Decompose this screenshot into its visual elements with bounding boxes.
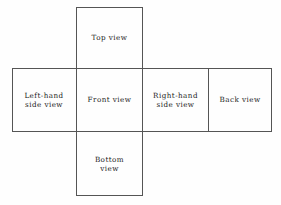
view-cell-front: Front view — [76, 68, 143, 132]
view-cell-bottom-label: Bottom view — [95, 155, 124, 174]
view-cell-front-label: Front view — [88, 95, 132, 105]
view-cell-bottom: Bottom view — [76, 132, 143, 196]
view-cell-top-label: Top view — [92, 33, 128, 43]
view-cell-left-hand-side-label: Left-hand side view — [24, 91, 63, 110]
view-cell-right-hand-side: Right-hand side view — [143, 68, 208, 132]
view-cell-top: Top view — [76, 7, 143, 68]
view-cell-right-hand-side-label: Right-hand side view — [153, 91, 198, 110]
view-cell-back-label: Back view — [219, 95, 260, 105]
orthographic-view-diagram: Top view Left-hand side view Front view … — [0, 0, 281, 205]
view-cell-left-hand-side: Left-hand side view — [12, 68, 76, 132]
view-cell-back: Back view — [208, 68, 272, 132]
